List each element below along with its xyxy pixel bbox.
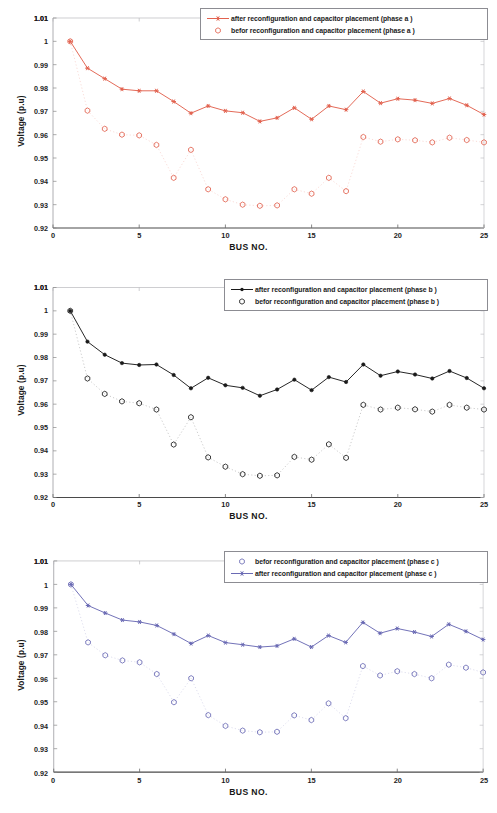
data-point-marker [189, 387, 192, 390]
data-point-marker-core [431, 636, 433, 638]
x-tick-label: 0 [38, 231, 68, 240]
legend: after reconfiguration and capacitor plac… [224, 279, 488, 311]
y-tick-label: 0.95 [8, 698, 48, 707]
data-point-marker-core [190, 112, 192, 114]
y-tick-label: 0.97 [8, 107, 48, 116]
x-tick-label: 0 [38, 500, 68, 509]
x-tick-label: 5 [124, 500, 154, 509]
data-point-marker-core [345, 641, 347, 643]
data-point-marker [223, 464, 228, 469]
data-point-marker [172, 700, 177, 705]
data-point-marker-core [466, 104, 468, 106]
y-tick-label: 0.97 [8, 376, 48, 385]
data-point-marker [85, 376, 90, 381]
series-line [71, 584, 483, 732]
data-point-marker [293, 378, 296, 381]
data-point-marker-core [414, 99, 416, 101]
data-point-marker [448, 369, 451, 372]
data-point-marker [86, 340, 89, 343]
data-point-marker-core [121, 88, 123, 90]
x-tick-label: 25 [469, 776, 497, 785]
data-point-marker-core [362, 91, 364, 93]
axis-ticks [54, 561, 483, 772]
x-tick-label: 15 [297, 500, 327, 509]
data-point-marker [344, 188, 349, 193]
legend-marker-open-hexagon-icon [229, 556, 255, 567]
plot-area [0, 271, 497, 542]
data-point-marker-core [87, 605, 89, 607]
axis-lines [54, 561, 483, 772]
data-point-marker [431, 377, 434, 380]
y-tick-label: 0.98 [8, 628, 48, 637]
data-point-marker-core [173, 101, 175, 103]
x-tick-label: 5 [124, 231, 154, 240]
data-point-marker-core [310, 646, 312, 648]
data-point-marker [171, 442, 176, 447]
data-point-marker-core [414, 631, 416, 633]
legend-item: befor reconfiguration and capacitor plac… [229, 295, 481, 307]
legend-item: befor reconfiguration and capacitor plac… [205, 24, 481, 36]
data-point-marker [326, 701, 331, 706]
data-point-marker [412, 671, 417, 676]
legend-marker-line-with-star-icon [205, 13, 231, 24]
legend-item: after reconfiguration and capacitor plac… [229, 567, 481, 579]
legend-marker-open-hexagon-icon [205, 25, 231, 36]
data-point-marker [224, 384, 227, 387]
data-point-marker [327, 442, 332, 447]
data-point-marker [361, 134, 366, 139]
data-point-marker [155, 363, 158, 366]
data-point-marker [464, 405, 469, 410]
data-point-marker-core [396, 628, 398, 630]
x-tick-label: 25 [469, 500, 497, 509]
y-tick-label: 0.94 [8, 446, 48, 455]
data-point-marker [482, 387, 485, 390]
series-2 [69, 582, 486, 649]
data-point-marker-core [362, 622, 364, 624]
data-point-marker [137, 401, 142, 406]
y-tick-label: 0.99 [8, 604, 48, 613]
data-point-marker [327, 375, 330, 378]
data-point-marker [241, 386, 244, 389]
y-tick-label: 0.98 [8, 84, 48, 93]
axis-lines [53, 18, 484, 228]
y-tick-label: 0.94 [8, 722, 48, 731]
x-axis-label: BUS NO. [0, 787, 497, 797]
y-tick-label: 1 [8, 306, 48, 315]
y-tick-label: 0.95 [8, 423, 48, 432]
series-line [71, 584, 483, 647]
x-tick-label: 20 [383, 500, 413, 509]
data-point-marker-core [87, 67, 89, 69]
data-point-marker-core [379, 632, 381, 634]
legend-label: befor reconfiguration and capacitor plac… [255, 298, 439, 305]
series-2 [68, 39, 486, 209]
data-point-marker-core [207, 105, 209, 107]
y-tick-label: 0.95 [8, 154, 48, 163]
data-point-marker-core [190, 643, 192, 645]
chart-phase-c: 0.920.930.940.950.960.970.980.9911.011.0… [0, 541, 497, 813]
data-point-marker-core [173, 633, 175, 635]
series-line [70, 311, 484, 476]
legend-label: befor reconfiguration and capacitor plac… [255, 558, 439, 565]
series-line [70, 41, 484, 121]
data-point-marker [206, 187, 211, 192]
data-point-marker [120, 658, 125, 663]
legend-label: befor reconfiguration and capacitor plac… [231, 27, 415, 34]
series-1 [68, 39, 486, 123]
legend-label: after reconfiguration and capacitor plac… [255, 570, 436, 577]
data-point-marker-core [259, 120, 261, 122]
plot-area [0, 0, 497, 271]
y-tick-label: 1.01 [8, 283, 48, 292]
data-point-marker [154, 407, 159, 412]
data-point-marker [396, 370, 399, 373]
series-line [70, 311, 484, 396]
x-tick-label: 0 [38, 776, 68, 785]
data-point-marker [344, 455, 349, 460]
data-point-marker-core [483, 114, 485, 116]
series-1 [69, 582, 486, 735]
data-point-marker [344, 380, 347, 383]
data-point-marker-core [293, 638, 295, 640]
series-2 [68, 308, 486, 478]
legend-label: after reconfiguration and capacitor plac… [231, 15, 412, 22]
data-point-marker [206, 376, 209, 379]
y-axis-label: Voltage (p.u) [16, 605, 26, 725]
